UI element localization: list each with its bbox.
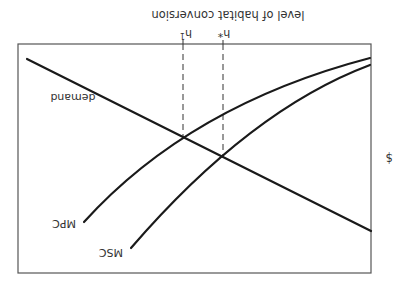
msc-curve [131, 65, 370, 248]
plot-frame [18, 44, 371, 273]
x-axis-label: level of habitat conversion [151, 8, 304, 22]
mpc-curve [84, 58, 370, 222]
mpc-label: MPC [52, 217, 76, 230]
demand-label: demand [50, 91, 95, 104]
y-axis-label: $ [385, 151, 392, 165]
demand-curve [27, 59, 371, 231]
habitat-conversion-diagram: level of habitat conversion h1 h* demand… [0, 0, 406, 289]
msc-label: MSC [99, 246, 123, 259]
h1-label: h1 [180, 27, 192, 41]
hstar-label: h* [217, 27, 230, 40]
